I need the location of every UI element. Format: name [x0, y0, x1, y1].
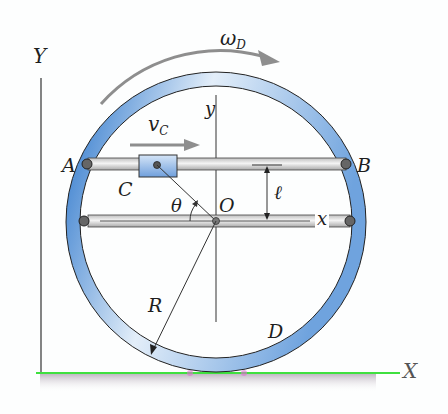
angular-velocity-arrowhead [258, 50, 280, 66]
velocity-subscript: C [159, 124, 168, 138]
pin-left-x [79, 216, 89, 226]
velocity-arrowhead [184, 139, 200, 151]
label-global-y: Y [33, 46, 46, 66]
contact-mark-right [241, 370, 247, 376]
label-angle-theta: θ [171, 197, 182, 215]
label-local-y: y [205, 100, 215, 118]
label-angular-velocity: ωD [220, 28, 246, 48]
pin-a [82, 159, 92, 169]
label-global-x: X [403, 361, 417, 381]
label-disk: D [268, 322, 283, 341]
label-velocity: vC [148, 114, 169, 134]
ground-shadow [40, 374, 376, 392]
pin-b [341, 159, 351, 169]
line-co [157, 165, 216, 221]
diagram-canvas: Y X y x ωD vC A B C O θ ℓ R D [0, 0, 448, 414]
angular-velocity-subscript: D [236, 38, 246, 52]
bar-ab [88, 158, 346, 170]
velocity-symbol: v [148, 112, 159, 136]
label-point-b: B [357, 156, 371, 175]
label-local-x: x [315, 210, 329, 228]
label-point-a: A [62, 156, 76, 175]
label-point-c: C [118, 180, 133, 199]
label-radius: R [148, 296, 162, 315]
contact-mark-left [187, 370, 193, 376]
label-length: ℓ [274, 183, 282, 202]
angular-velocity-symbol: ω [220, 26, 236, 50]
radius-line [152, 221, 216, 352]
pin-right-x [345, 216, 355, 226]
label-point-o: O [219, 196, 235, 215]
